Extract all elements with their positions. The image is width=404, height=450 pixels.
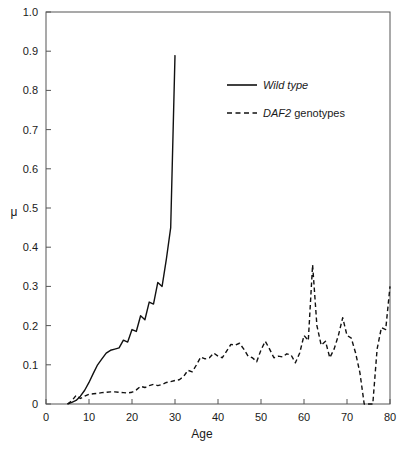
x-tick-label: 80 — [384, 411, 396, 423]
legend-entry-daf2-genotypes: DAF2 genotypes — [263, 107, 345, 119]
x-tick-label: 10 — [83, 411, 95, 423]
x-tick-label: 60 — [298, 411, 310, 423]
y-tick-label: 0.6 — [23, 163, 38, 175]
y-tick-label: 0.8 — [23, 84, 38, 96]
y-axis-title: μ — [2, 205, 26, 219]
legend-entry-wild-type: Wild type — [263, 79, 308, 91]
y-tick-label: 1.0 — [23, 6, 38, 18]
x-tick-label: 0 — [43, 411, 49, 423]
y-tick-label: 0 — [32, 398, 38, 410]
legend-label-normal-run: genotypes — [291, 107, 345, 119]
chart-figure: 01020304050607080 00.10.20.30.40.50.60.7… — [0, 0, 404, 450]
x-tick-label: 30 — [169, 411, 181, 423]
series-line-daf2-genotypes — [68, 265, 391, 404]
plot-frame — [46, 12, 390, 404]
x-axis-tick-labels: 01020304050607080 — [43, 411, 396, 423]
y-tick-label: 0.4 — [23, 241, 38, 253]
x-axis-ticks — [46, 399, 390, 404]
y-tick-label: 0.3 — [23, 280, 38, 292]
y-tick-label: 0.1 — [23, 359, 38, 371]
x-tick-label: 50 — [255, 411, 267, 423]
y-axis-ticks — [46, 12, 51, 404]
legend-line-samples — [227, 85, 257, 113]
x-axis-title: Age — [0, 427, 404, 441]
plot-border — [46, 12, 390, 404]
x-tick-label: 20 — [126, 411, 138, 423]
x-tick-label: 40 — [212, 411, 224, 423]
legend-label-italic-run: DAF2 — [263, 107, 291, 119]
x-tick-label: 70 — [341, 411, 353, 423]
line-chart-canvas: 01020304050607080 00.10.20.30.40.50.60.7… — [0, 0, 404, 450]
legend-label-italic-run: Wild type — [263, 79, 308, 91]
y-tick-label: 0.7 — [23, 124, 38, 136]
series-line-wild-type — [68, 55, 176, 404]
y-tick-label: 0.2 — [23, 320, 38, 332]
y-tick-label: 0.9 — [23, 45, 38, 57]
